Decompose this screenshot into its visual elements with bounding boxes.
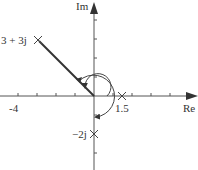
- tick-label-minus-4: -4: [9, 102, 19, 114]
- imaginary-axis-label: Im: [76, 0, 89, 12]
- real-axis-label: Re: [183, 102, 195, 114]
- imaginary-axis: [90, 2, 98, 170]
- imaginary-axis-arrow-icon: [90, 2, 98, 14]
- real-axis: [0, 92, 198, 100]
- point-label-1-5: 1.5: [115, 102, 129, 114]
- complex-plane-diagram: Im Re -4 3 + 3j 1.5 −2j: [0, 0, 198, 170]
- point-label-minus-2j: −2j: [72, 128, 87, 140]
- point-label-3-3j: 3 + 3j: [1, 34, 27, 46]
- inner-angle-arc: [85, 74, 111, 96]
- point-marker-3-3j: [34, 36, 42, 44]
- vector-line: [39, 41, 94, 96]
- real-axis-arrow-icon: [186, 92, 198, 100]
